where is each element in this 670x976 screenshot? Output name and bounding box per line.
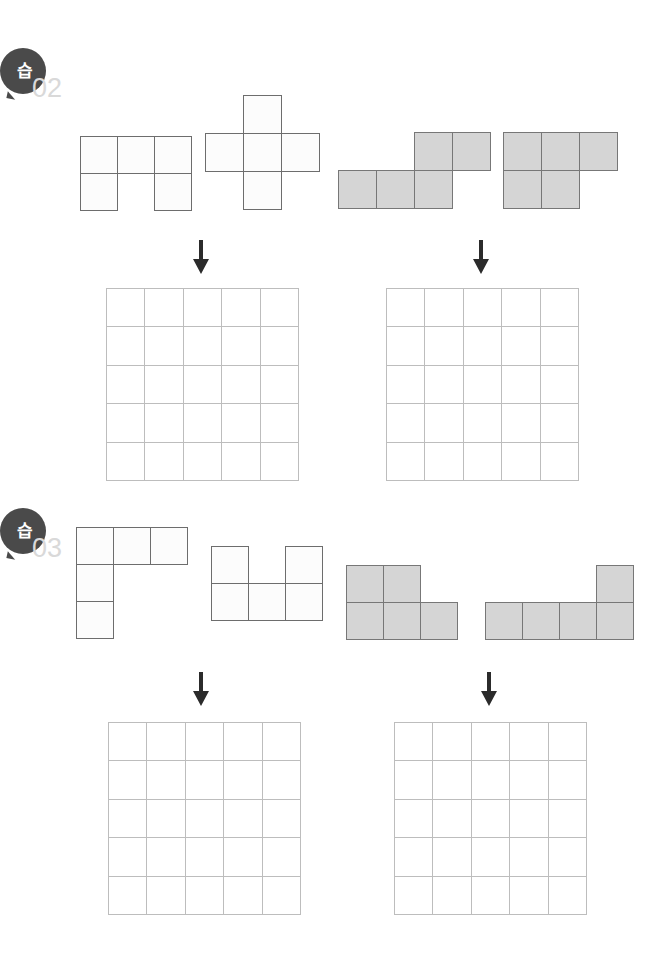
answer-grid-cell[interactable] bbox=[184, 443, 221, 480]
answer-grid-cell[interactable] bbox=[109, 877, 146, 914]
answer-grid-cell[interactable] bbox=[222, 404, 259, 441]
answer-grid-cell[interactable] bbox=[502, 327, 539, 364]
answer-grid-cell[interactable] bbox=[425, 366, 462, 403]
answer-grid-cell[interactable] bbox=[472, 800, 509, 837]
answer-grid-cell[interactable] bbox=[502, 366, 539, 403]
answer-grid-cell[interactable] bbox=[109, 800, 146, 837]
answer-grid-cell[interactable] bbox=[387, 404, 424, 441]
answer-grid-cell[interactable] bbox=[549, 877, 586, 914]
answer-grid-cell[interactable] bbox=[541, 327, 578, 364]
answer-grid-cell[interactable] bbox=[549, 761, 586, 798]
answer-grid-cell[interactable] bbox=[464, 327, 501, 364]
answer-grid-cell[interactable] bbox=[147, 723, 184, 760]
answer-grid-cell[interactable] bbox=[184, 366, 221, 403]
answer-grid-cell[interactable] bbox=[222, 366, 259, 403]
answer-grid-cell[interactable] bbox=[145, 366, 182, 403]
answer-grid-cell[interactable] bbox=[425, 289, 462, 326]
answer-grid-cell[interactable] bbox=[222, 289, 259, 326]
answer-grid-cell[interactable] bbox=[472, 761, 509, 798]
answer-grid-cell[interactable] bbox=[147, 761, 184, 798]
answer-grid-cell[interactable] bbox=[107, 404, 144, 441]
answer-grid-cell[interactable] bbox=[395, 877, 432, 914]
answer-grid-cell[interactable] bbox=[222, 327, 259, 364]
answer-grid-cell[interactable] bbox=[184, 327, 221, 364]
answer-grid[interactable] bbox=[106, 288, 299, 481]
answer-grid-cell[interactable] bbox=[107, 327, 144, 364]
answer-grid-cell[interactable] bbox=[549, 800, 586, 837]
answer-grid-cell[interactable] bbox=[433, 800, 470, 837]
answer-grid-cell[interactable] bbox=[107, 289, 144, 326]
answer-grid-cell[interactable] bbox=[222, 443, 259, 480]
answer-grid-cell[interactable] bbox=[109, 838, 146, 875]
answer-grid-cell[interactable] bbox=[224, 761, 261, 798]
answer-grid-cell[interactable] bbox=[541, 404, 578, 441]
answer-grid-cell[interactable] bbox=[510, 800, 547, 837]
answer-grid-cell[interactable] bbox=[425, 327, 462, 364]
answer-grid-cell[interactable] bbox=[184, 289, 221, 326]
answer-grid-cell[interactable] bbox=[263, 838, 300, 875]
answer-grid-cell[interactable] bbox=[472, 723, 509, 760]
answer-grid-cell[interactable] bbox=[261, 404, 298, 441]
answer-grid-cell[interactable] bbox=[224, 800, 261, 837]
answer-grid-cell[interactable] bbox=[464, 404, 501, 441]
answer-grid-cell[interactable] bbox=[224, 877, 261, 914]
answer-grid-cell[interactable] bbox=[541, 366, 578, 403]
answer-grid[interactable] bbox=[386, 288, 579, 481]
answer-grid-cell[interactable] bbox=[261, 443, 298, 480]
answer-grid-cell[interactable] bbox=[107, 366, 144, 403]
answer-grid-cell[interactable] bbox=[186, 723, 223, 760]
answer-grid-cell[interactable] bbox=[510, 877, 547, 914]
answer-grid-cell[interactable] bbox=[145, 443, 182, 480]
answer-grid-cell[interactable] bbox=[263, 761, 300, 798]
answer-grid-cell[interactable] bbox=[395, 723, 432, 760]
answer-grid[interactable] bbox=[394, 722, 587, 915]
answer-grid-cell[interactable] bbox=[433, 838, 470, 875]
answer-grid-cell[interactable] bbox=[387, 327, 424, 364]
answer-grid-cell[interactable] bbox=[502, 289, 539, 326]
answer-grid-cell[interactable] bbox=[549, 838, 586, 875]
answer-grid-cell[interactable] bbox=[107, 443, 144, 480]
answer-grid-cell[interactable] bbox=[261, 327, 298, 364]
answer-grid-cell[interactable] bbox=[387, 289, 424, 326]
answer-grid-cell[interactable] bbox=[147, 877, 184, 914]
answer-grid-cell[interactable] bbox=[541, 443, 578, 480]
answer-grid-cell[interactable] bbox=[186, 877, 223, 914]
answer-grid-cell[interactable] bbox=[472, 838, 509, 875]
answer-grid-cell[interactable] bbox=[109, 723, 146, 760]
answer-grid-cell[interactable] bbox=[395, 800, 432, 837]
answer-grid-cell[interactable] bbox=[263, 723, 300, 760]
answer-grid[interactable] bbox=[108, 722, 301, 915]
answer-grid-cell[interactable] bbox=[510, 838, 547, 875]
answer-grid-cell[interactable] bbox=[510, 723, 547, 760]
answer-grid-cell[interactable] bbox=[186, 761, 223, 798]
answer-grid-cell[interactable] bbox=[147, 800, 184, 837]
answer-grid-cell[interactable] bbox=[147, 838, 184, 875]
answer-grid-cell[interactable] bbox=[549, 723, 586, 760]
answer-grid-cell[interactable] bbox=[387, 443, 424, 480]
answer-grid-cell[interactable] bbox=[502, 443, 539, 480]
answer-grid-cell[interactable] bbox=[395, 838, 432, 875]
answer-grid-cell[interactable] bbox=[145, 404, 182, 441]
answer-grid-cell[interactable] bbox=[395, 761, 432, 798]
answer-grid-cell[interactable] bbox=[184, 404, 221, 441]
answer-grid-cell[interactable] bbox=[261, 289, 298, 326]
answer-grid-cell[interactable] bbox=[433, 761, 470, 798]
answer-grid-cell[interactable] bbox=[433, 723, 470, 760]
answer-grid-cell[interactable] bbox=[186, 838, 223, 875]
answer-grid-cell[interactable] bbox=[464, 289, 501, 326]
answer-grid-cell[interactable] bbox=[145, 327, 182, 364]
answer-grid-cell[interactable] bbox=[472, 877, 509, 914]
answer-grid-cell[interactable] bbox=[425, 443, 462, 480]
answer-grid-cell[interactable] bbox=[541, 289, 578, 326]
answer-grid-cell[interactable] bbox=[425, 404, 462, 441]
answer-grid-cell[interactable] bbox=[224, 838, 261, 875]
answer-grid-cell[interactable] bbox=[502, 404, 539, 441]
answer-grid-cell[interactable] bbox=[263, 800, 300, 837]
answer-grid-cell[interactable] bbox=[145, 289, 182, 326]
answer-grid-cell[interactable] bbox=[263, 877, 300, 914]
answer-grid-cell[interactable] bbox=[387, 366, 424, 403]
answer-grid-cell[interactable] bbox=[464, 366, 501, 403]
answer-grid-cell[interactable] bbox=[261, 366, 298, 403]
answer-grid-cell[interactable] bbox=[186, 800, 223, 837]
answer-grid-cell[interactable] bbox=[109, 761, 146, 798]
